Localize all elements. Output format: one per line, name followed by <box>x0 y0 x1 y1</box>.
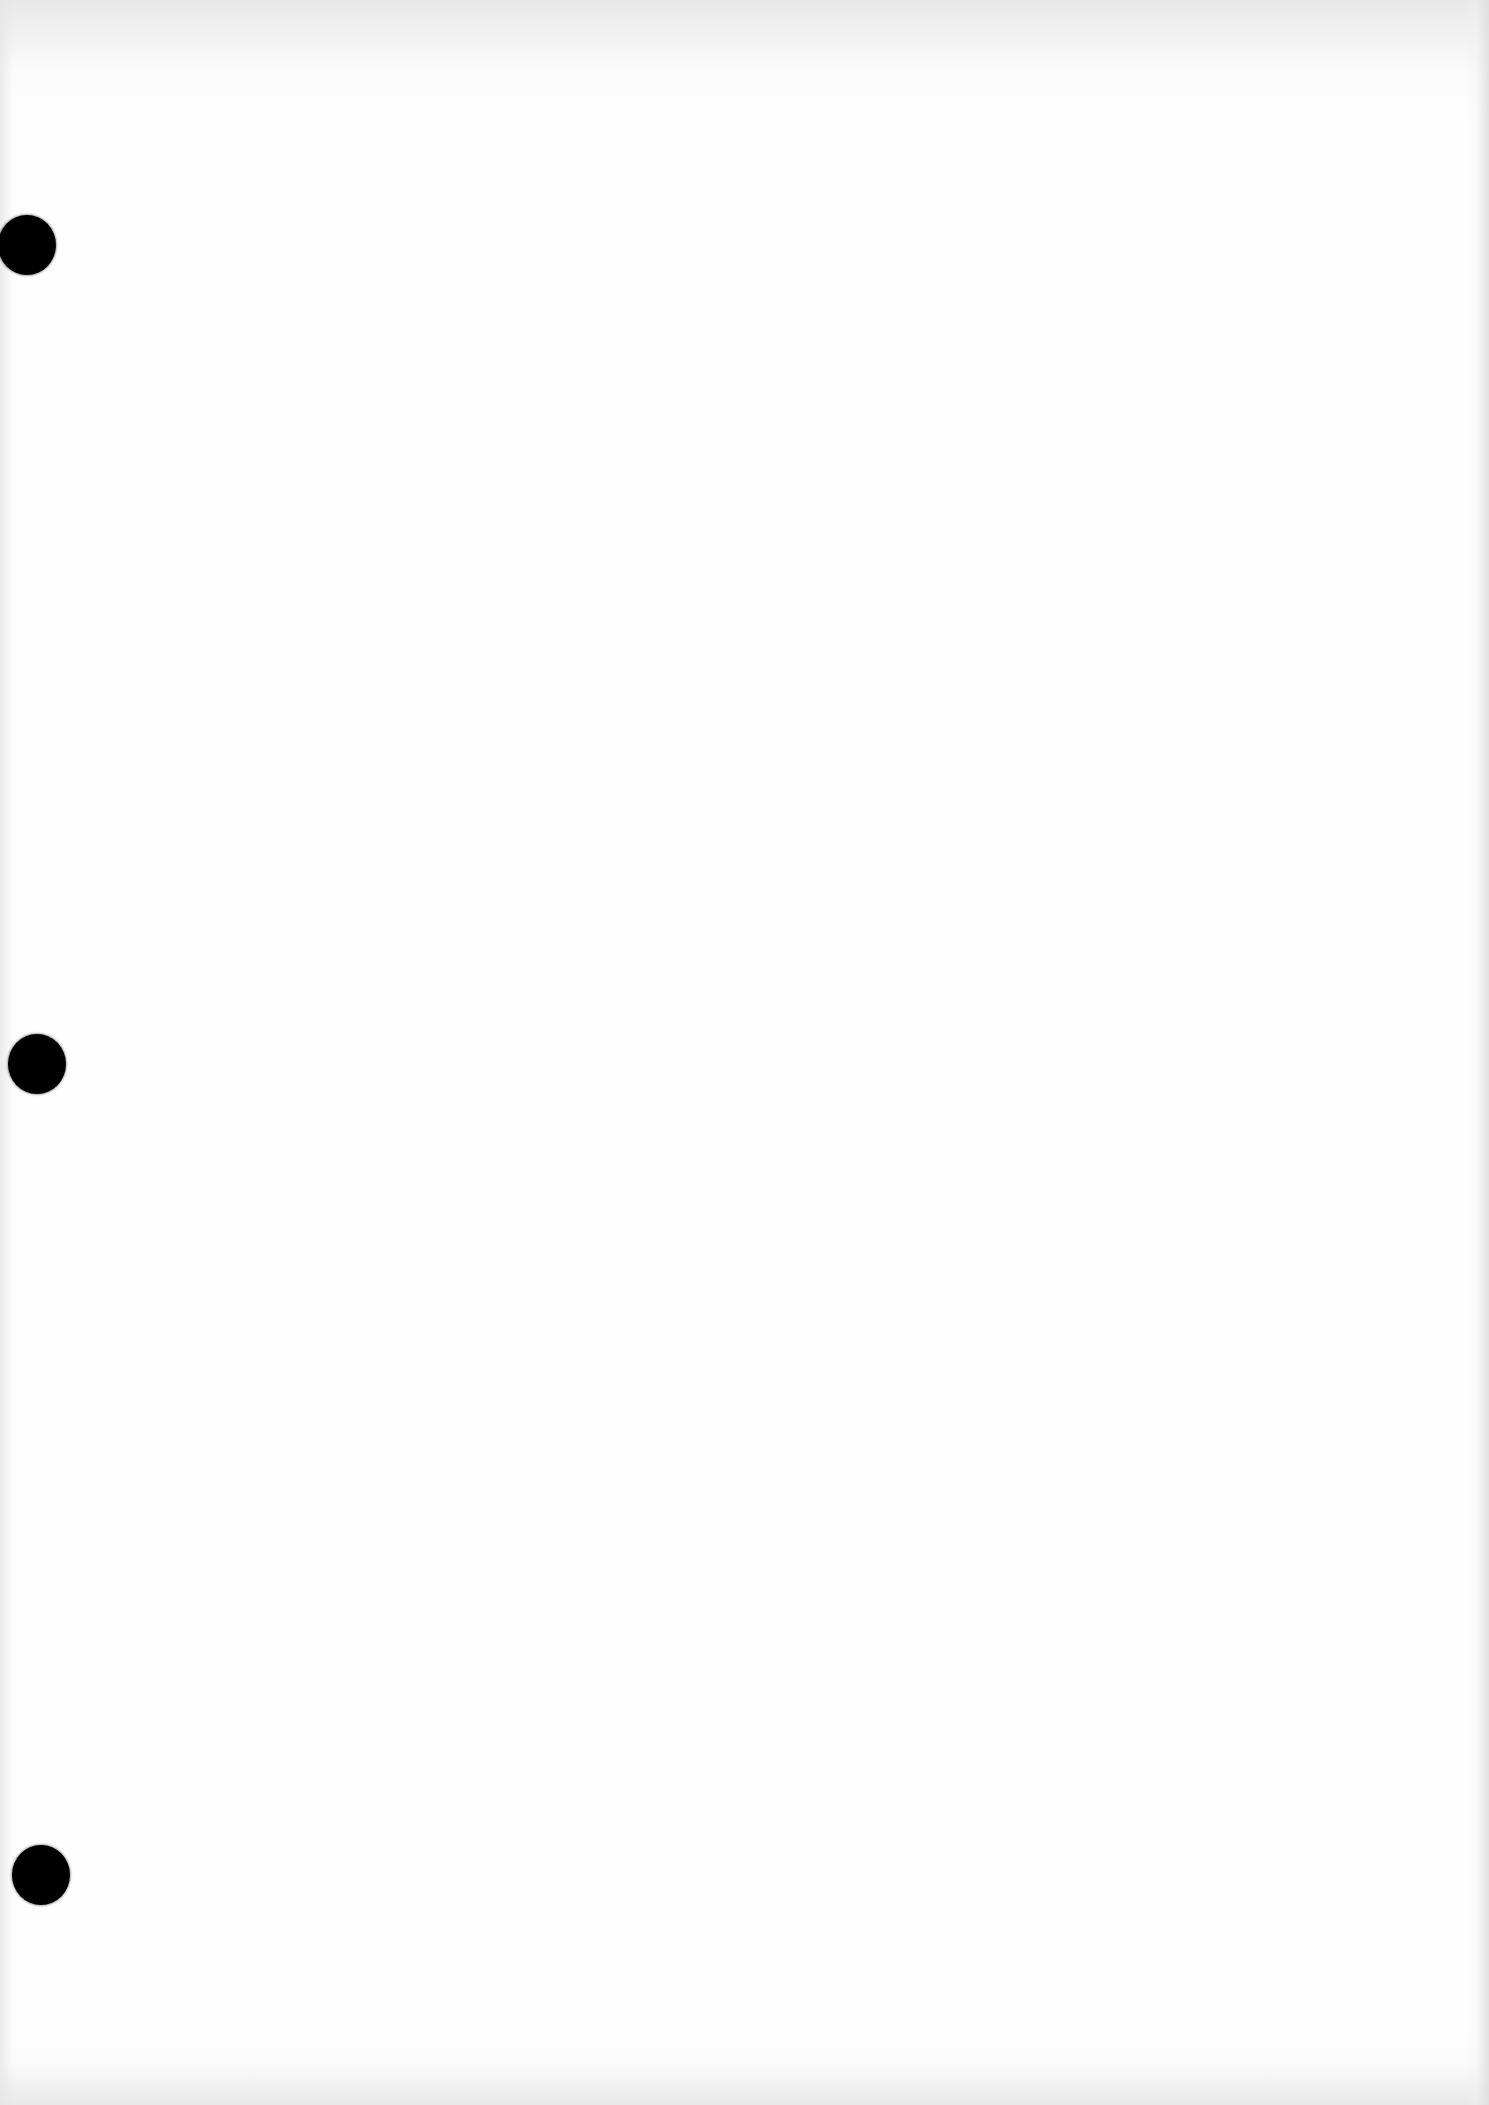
punch-hole-top <box>0 215 56 275</box>
punch-hole-middle <box>8 1034 66 1094</box>
scan-edge-bottom <box>0 2035 1489 2105</box>
scan-edge-top <box>0 0 1489 120</box>
scanned-blank-page <box>0 0 1489 2105</box>
punch-hole-bottom <box>12 1845 70 1905</box>
scan-edge-right <box>1465 0 1489 2105</box>
